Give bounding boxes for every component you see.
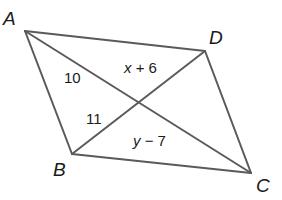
vertex-label-d: D xyxy=(209,28,223,47)
side-ba xyxy=(25,31,72,154)
parallelogram-diagram xyxy=(0,0,282,200)
vertex-label-b: B xyxy=(53,160,66,179)
vertex-label-c: C xyxy=(256,176,270,195)
expression-op-ce: − 7 xyxy=(145,132,166,149)
segment-label-be: 11 xyxy=(86,111,102,126)
side-dc xyxy=(205,51,251,173)
segment-label-ce: y − 7 xyxy=(133,133,166,148)
vertex-label-a: A xyxy=(3,9,16,28)
segment-label-ae: 10 xyxy=(64,70,81,85)
expression-op-de: + 6 xyxy=(136,59,157,76)
variable-x: x xyxy=(124,59,132,76)
segment-label-de: x + 6 xyxy=(124,60,157,75)
variable-y: y xyxy=(133,132,141,149)
